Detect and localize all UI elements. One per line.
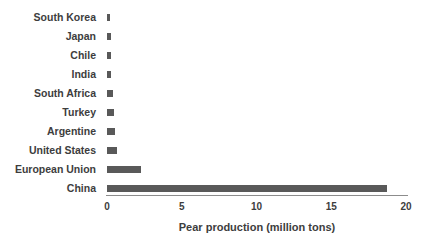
bar-united-states — [107, 147, 117, 154]
category-label-china: China — [0, 179, 96, 198]
category-label-south-korea: South Korea — [0, 8, 96, 27]
category-label-japan: Japan — [0, 27, 96, 46]
x-tick-label-20: 20 — [391, 201, 421, 212]
category-label-chile: Chile — [0, 46, 96, 65]
bar-turkey — [107, 109, 114, 116]
bar-argentine — [107, 128, 115, 135]
bar-china — [107, 185, 387, 192]
category-label-european-union: European Union — [0, 160, 96, 179]
x-tick-label-10: 10 — [242, 201, 272, 212]
x-tick-label-0: 0 — [92, 201, 122, 212]
bar-european-union — [107, 166, 141, 173]
bar-india — [107, 71, 111, 78]
category-label-south-africa: South Africa — [0, 84, 96, 103]
category-label-turkey: Turkey — [0, 103, 96, 122]
category-label-united-states: United States — [0, 141, 96, 160]
category-label-argentine: Argentine — [0, 122, 96, 141]
bar-chile — [107, 52, 111, 59]
bar-japan — [107, 33, 111, 40]
x-axis-title: Pear production (million tons) — [107, 221, 407, 233]
x-tick-label-15: 15 — [316, 201, 346, 212]
bar-south-africa — [107, 90, 113, 97]
bar-south-korea — [107, 14, 110, 21]
category-label-india: India — [0, 65, 96, 84]
pear-production-bar-chart: Pear production (million tons) South Kor… — [0, 0, 424, 244]
x-tick-label-5: 5 — [167, 201, 197, 212]
x-axis-line — [106, 195, 408, 196]
